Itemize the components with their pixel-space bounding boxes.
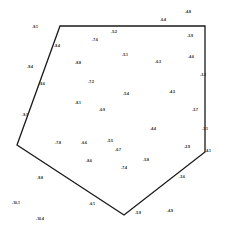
point-label: -6.1 [89,202,95,206]
point-label: -2.9 [184,145,190,149]
point-label: -7.8 [55,141,61,145]
point-label: -4.1 [205,149,211,153]
point-label: -9.8 [37,176,43,180]
point-label: -6.3 [155,60,161,64]
point-label: -4.9 [167,209,173,213]
point-label: -3.6 [179,175,185,179]
point-label: -4.3 [169,90,175,94]
point-label: -8.1 [75,101,81,105]
point-label: -5.2 [111,30,117,34]
point-label: -4.6 [188,55,194,59]
point-label: -5.8 [143,158,149,162]
point-label: -10.1 [12,201,20,205]
point-label: -3.7 [192,108,198,112]
point-label: -9.3 [22,113,28,117]
point-label: -3.1 [202,127,208,131]
point-label: -6.9 [99,108,105,112]
point-label: -5.1 [122,53,128,57]
point-label: -5.9 [135,211,141,215]
point-label: -6.7 [115,148,121,152]
point-label: -7.6 [92,38,98,42]
point-label: -3.9 [187,34,193,38]
point-label: -7.2 [88,80,94,84]
point-label: -8.6 [86,159,92,163]
point-label: -10.4 [36,217,44,221]
point-label: -6.4 [160,18,166,22]
point-label: -9.4 [27,65,33,69]
point-label: -5.4 [123,92,129,96]
region-polygon [17,26,205,215]
point-label: -6.6 [81,141,87,145]
point-label: -9.6 [39,82,45,86]
point-label: -8.8 [75,61,81,65]
point-label: -9.1 [32,25,38,29]
point-label: -4.4 [150,127,156,131]
point-label: -4.8 [185,10,191,14]
point-label: -3.2 [200,73,206,77]
point-label: -7.4 [121,166,127,170]
point-label: -5.5 [107,139,113,143]
point-label: -8.4 [54,44,60,48]
